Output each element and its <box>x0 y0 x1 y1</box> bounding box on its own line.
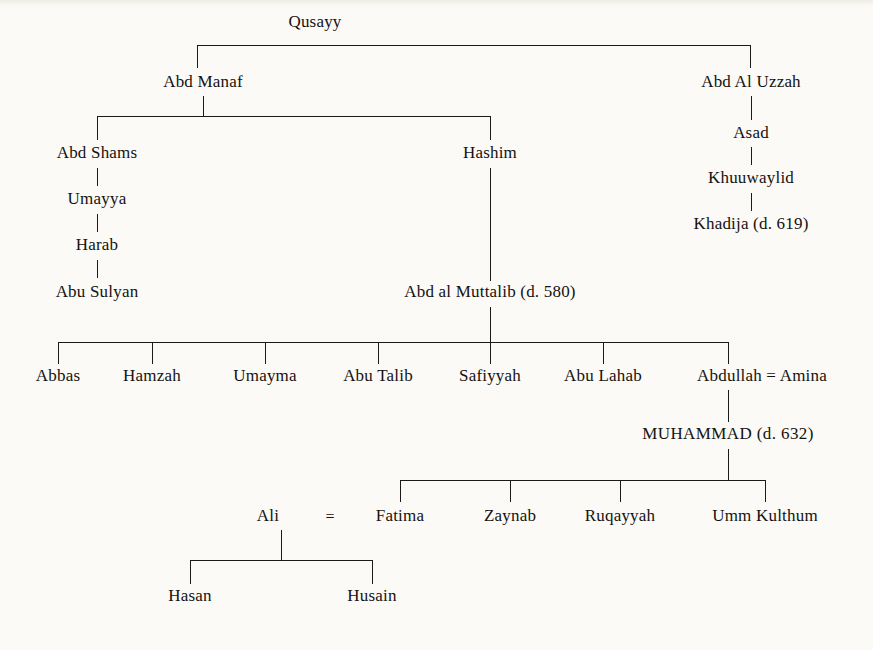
node-abu-lahab: Abu Lahab <box>564 366 642 386</box>
node-umayya: Umayya <box>68 189 127 209</box>
page-top-edge-shading <box>0 0 873 6</box>
connector-muhammad-children-horizontal <box>400 480 765 481</box>
node-abu-sulyan: Abu Sulyan <box>56 282 139 302</box>
node-harab: Harab <box>76 235 119 255</box>
connector-to-safiyyah <box>490 342 491 364</box>
node-umayma: Umayma <box>233 366 297 386</box>
connector-to-umayma <box>265 342 266 364</box>
connector-abd-al-uzzah-to-asad <box>751 96 752 120</box>
node-abd-shams: Abd Shams <box>57 143 138 163</box>
connector-qusayy-to-abd-manaf <box>197 45 198 68</box>
node-muhammad: MUHAMMAD (d. 632) <box>642 424 814 444</box>
connector-khuuwaylid-to-khadija <box>751 193 752 211</box>
connector-to-ruqayyah <box>620 480 621 502</box>
connector-to-abu-lahab <box>603 342 604 364</box>
node-qusayy: Qusayy <box>288 12 341 32</box>
connector-qusayy-children-horizontal <box>197 45 751 46</box>
connector-abd-manaf-children-horizontal <box>97 116 490 117</box>
node-asad: Asad <box>733 123 769 143</box>
connector-abd-manaf-to-hashim <box>490 116 491 140</box>
connector-to-hamzah <box>152 342 153 364</box>
connector-abd-shams-to-umayya <box>97 168 98 186</box>
node-ruqayyah: Ruqayyah <box>585 506 656 526</box>
connector-abd-manaf-stem <box>203 96 204 116</box>
node-husain: Husain <box>347 586 396 606</box>
connector-ali-fatima-stem <box>281 530 282 560</box>
node-ali: Ali <box>257 506 279 526</box>
family-tree-diagram: Qusayy Abd Manaf Abd Al Uzzah Abd Shams … <box>0 0 873 650</box>
connector-to-abbas <box>58 342 59 364</box>
node-abd-al-muttalib: Abd al Muttalib (d. 580) <box>404 282 575 302</box>
node-khadija: Khadija (d. 619) <box>693 214 808 234</box>
connector-asad-to-khuuwaylid <box>751 147 752 165</box>
node-hamzah: Hamzah <box>123 366 181 386</box>
connector-to-fatima <box>400 480 401 502</box>
connector-umayya-to-harab <box>97 214 98 232</box>
connector-to-abu-talib <box>378 342 379 364</box>
node-abd-manaf: Abd Manaf <box>163 72 243 92</box>
node-fatima: Fatima <box>376 506 424 526</box>
connector-to-hasan <box>190 560 191 584</box>
node-hasan: Hasan <box>168 586 211 606</box>
connector-ali-children-horizontal <box>190 560 372 561</box>
connector-abdullah-amina-to-muhammad <box>728 390 729 422</box>
node-safiyyah: Safiyyah <box>459 366 521 386</box>
connector-abd-al-muttalib-stem <box>490 307 491 342</box>
node-khuuwaylid: Khuuwaylid <box>708 168 794 188</box>
node-hashim: Hashim <box>463 143 517 163</box>
node-abd-al-uzzah: Abd Al Uzzah <box>701 72 801 92</box>
connector-qusayy-to-abd-al-uzzah <box>750 45 751 68</box>
connector-muhammad-stem <box>728 449 729 480</box>
connector-abd-manaf-to-abd-shams <box>97 116 98 140</box>
connector-to-abdullah <box>728 342 729 364</box>
connector-hashim-to-abd-al-muttalib <box>490 168 491 281</box>
connector-to-zaynab <box>510 480 511 502</box>
node-abu-talib: Abu Talib <box>343 366 413 386</box>
connector-harab-to-abu-sulyan <box>97 260 98 278</box>
node-abdullah-amina-marriage: Abdullah = Amina <box>697 366 827 386</box>
marriage-symbol-ali-fatima: = <box>325 507 334 527</box>
connector-to-husain <box>372 560 373 584</box>
node-umm-kulthum: Umm Kulthum <box>712 506 818 526</box>
node-zaynab: Zaynab <box>484 506 536 526</box>
connector-abd-al-muttalib-children-horizontal <box>58 342 728 343</box>
connector-to-umm-kulthum <box>765 480 766 502</box>
node-abbas: Abbas <box>36 366 80 386</box>
